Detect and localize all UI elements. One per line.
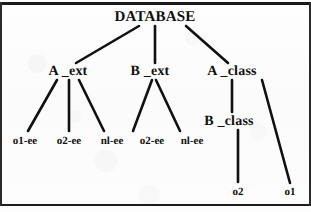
node-b-class: B _class [204, 115, 253, 129]
node-a-ext: A _ext [49, 65, 88, 79]
leaf-o2: o2 [233, 187, 244, 198]
edge-database-to-a-ext [76, 26, 139, 63]
leaf-o1-ee: o1-ee [13, 136, 37, 147]
node-b-ext: B _ext [131, 65, 170, 79]
tree-edges [0, 0, 311, 212]
leaf-nl-ee-a: nl-ee [101, 136, 124, 147]
edge-b-ext-to-nl-ee [156, 80, 180, 131]
edge-a-ext-to-o1-ee [28, 80, 57, 131]
node-a-class: A _class [207, 65, 256, 79]
figure-canvas: DATABASE A _ext B _ext A _class B _class… [0, 0, 311, 212]
edge-a-class-to-o1 [262, 80, 290, 183]
edge-a-ext-to-nl-ee [79, 80, 104, 131]
leaf-nl-ee-b: nl-ee [181, 136, 204, 147]
leaf-o2-ee-b: o2-ee [140, 136, 164, 147]
edge-b-ext-to-o2-ee [133, 80, 152, 131]
leaf-o1: o1 [285, 187, 296, 198]
leaf-o2-ee-a: o2-ee [57, 136, 81, 147]
node-database: DATABASE [114, 10, 195, 25]
edge-database-to-a-class [186, 26, 228, 63]
